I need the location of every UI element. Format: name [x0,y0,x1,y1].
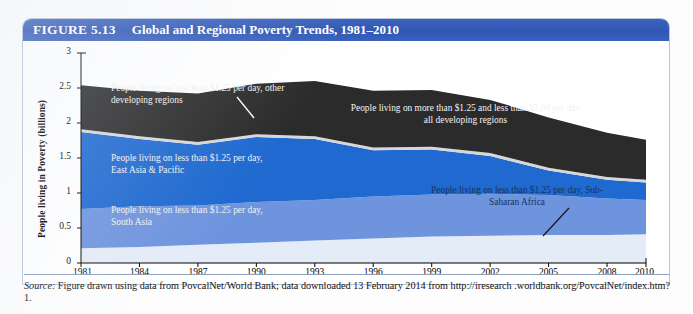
figure-page: FIGURE 5.13 Global and Regional Poverty … [0,0,693,314]
figure-title-bar: FIGURE 5.13 Global and Regional Poverty … [23,19,670,41]
annot-above-125-below-200: People living on more than $1.25 and les… [323,103,608,126]
source-prefix: Source: [24,280,55,291]
annot-east-asia-pacific: People living on less than $1.25 per day… [111,153,326,176]
figure-number-label: FIGURE 5.13 [33,22,116,38]
annot-other-developing: People living on less than $1.25 per day… [111,83,326,106]
source-text: Figure drawn using data from PovcalNet/W… [24,280,670,303]
source-divider [24,274,669,275]
source-note: Source: Figure drawn using data from Pov… [24,280,672,305]
annot-south-asia: People living on less than $1.25 per day… [111,205,326,228]
figure-title-text: Global and Regional Poverty Trends, 1981… [132,22,399,38]
chart-plot-area: People living in Poverty (billions) 00.5… [23,41,670,285]
figure-frame: FIGURE 5.13 Global and Regional Poverty … [22,18,670,285]
annot-sub-saharan-africa: People living on less than $1.25 per day… [393,185,641,208]
